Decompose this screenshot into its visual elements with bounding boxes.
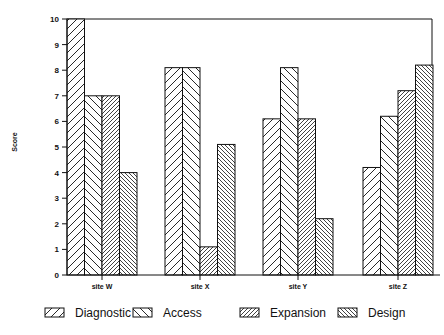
y-tick-label: 5 [55,143,60,152]
bar-group-site-y [263,68,333,275]
y-tick-label: 7 [55,92,60,101]
x-axis: site Wsite Xsite Ysite Z [67,275,440,290]
legend-item-design: Design [338,306,405,320]
y-tick-label: 1 [55,245,60,254]
bar-expansion [200,247,218,275]
legend: DiagnosticAccessExpansionDesign [45,306,405,320]
y-tick-label: 9 [55,41,60,50]
y-axis-title: Score [11,132,18,152]
bar-group-site-x [165,68,235,275]
legend-swatch-expansion [240,308,259,317]
y-tick-label: 6 [55,117,60,126]
y-axis-title-text: Score [11,132,18,152]
bar-access [381,116,399,275]
bar-expansion [298,119,316,275]
grouped-bar-chart: 012345678910 site Wsite Xsite Ysite Z Sc… [0,0,444,335]
legend-item-diagnostic: Diagnostic [45,306,131,320]
bar-diagnostic [165,68,183,275]
y-tick-label: 2 [55,220,60,229]
y-tick-label: 3 [55,194,60,203]
bars-group [67,19,433,275]
y-tick-label: 0 [55,271,60,280]
y-tick-label: 4 [55,169,60,178]
bar-diagnostic [263,119,281,275]
legend-swatch-access [133,308,152,317]
bar-expansion [398,91,416,275]
legend-label: Diagnostic [75,306,131,320]
y-tick-label: 10 [50,15,59,24]
x-tick-label: site W [92,283,113,290]
legend-item-expansion: Expansion [240,306,326,320]
bar-access [281,68,299,275]
bar-design [218,144,236,275]
bar-group-site-z [363,65,433,275]
bar-diagnostic [363,167,381,275]
bar-access [85,96,103,275]
x-tick-label: site Y [289,283,308,290]
bar-design [120,173,138,275]
bar-diagnostic [67,19,85,275]
legend-label: Design [368,306,405,320]
bar-design [316,219,334,275]
legend-swatch-design [338,308,357,317]
y-tick-label: 8 [55,66,60,75]
bar-group-site-w [67,19,137,275]
legend-item-access: Access [133,306,202,320]
bar-design [416,65,434,275]
bar-access [183,68,201,275]
legend-label: Access [163,306,202,320]
x-tick-label: site Z [389,283,408,290]
bar-expansion [102,96,120,275]
y-axis: 012345678910 [50,15,67,280]
legend-swatch-diagnostic [45,308,64,317]
legend-label: Expansion [270,306,326,320]
x-tick-label: site X [191,283,210,290]
